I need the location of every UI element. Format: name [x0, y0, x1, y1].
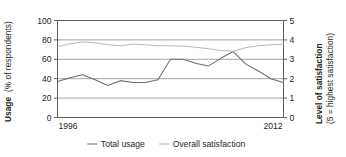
left-axis-tick-label: 40 — [42, 74, 52, 84]
right-axis-tick-label: 1 — [290, 93, 295, 103]
right-axis-title-rest: (5 = highest satisfaction) — [325, 33, 335, 124]
left-axis-tick-label: 60 — [42, 54, 52, 64]
right-axis-tick-label: 0 — [290, 113, 295, 123]
chart-figure: Usage (% of respondents) Level of satisf… — [0, 0, 346, 157]
right-axis-title-bold: Level of satisfaction — [314, 43, 324, 124]
right-axis-title: Level of satisfaction (5 = highest satis… — [314, 33, 335, 124]
legend-label: Overall satisfaction — [173, 139, 246, 149]
legend-label: Total usage — [101, 139, 145, 149]
x-axis-tick-label-start: 1996 — [59, 121, 78, 131]
right-axis-tick-label: 3 — [290, 54, 295, 64]
right-axis-tick-label: 2 — [290, 74, 295, 84]
left-axis-tick-label: 20 — [42, 93, 52, 103]
left-axis-title: Usage (% of respondents) — [3, 21, 13, 122]
right-axis-tick-label: 4 — [290, 35, 295, 45]
right-axis-tick-label: 5 — [290, 16, 295, 26]
left-axis-title-rest: (% of respondents) — [3, 21, 13, 92]
x-axis-tick-label-end: 2012 — [263, 121, 282, 131]
left-axis-tick-label: 80 — [42, 35, 52, 45]
left-axis-tick-label: 100 — [37, 16, 52, 26]
left-axis-title-bold: Usage — [3, 97, 13, 122]
left-axis-tick-label: 0 — [47, 113, 52, 123]
